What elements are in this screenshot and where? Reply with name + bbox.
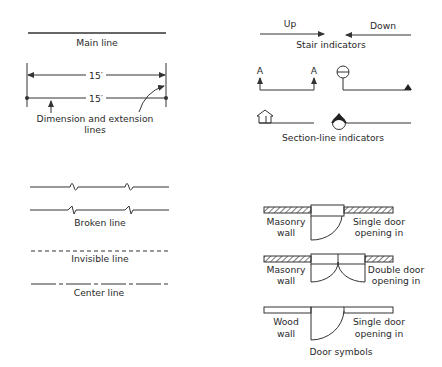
door-label: opening in — [355, 328, 404, 339]
broken-line-symbol: Broken line — [30, 184, 169, 229]
door-label: opening in — [372, 275, 421, 286]
section-triangle-icon — [404, 84, 412, 90]
diagram-canvas: Main line 15′ 15′ Dimension and extensio… — [0, 0, 442, 367]
dimension-dot-icon — [25, 96, 29, 100]
dimension-label-line1: Dimension and extension — [37, 113, 154, 124]
stair-indicators: Up Down Stair indicators — [260, 18, 411, 50]
door-label: Single door — [353, 216, 405, 227]
door-label: Single door — [353, 316, 405, 327]
dimension-value-top: 15′ — [89, 70, 103, 81]
door-swing-icon — [338, 262, 365, 282]
section-marker-right: A — [311, 65, 318, 76]
wall-label: wall — [277, 275, 295, 286]
section-caption: Section-line indicators — [282, 132, 384, 143]
door-label: opening in — [355, 227, 404, 238]
dimension-dot-icon — [164, 96, 168, 100]
door-swing-icon — [311, 262, 338, 282]
door-swing-icon — [311, 216, 342, 240]
door-row-masonry-single: Masonry wall Single door opening in — [264, 205, 405, 240]
main-line-symbol: Main line — [28, 33, 166, 48]
leader-arrow-icon — [139, 86, 164, 112]
dimension-symbol: 15′ 15′ Dimension and extension lines — [25, 63, 168, 135]
door-swing-icon — [311, 311, 344, 340]
stair-caption: Stair indicators — [296, 39, 366, 50]
door-row-masonry-double: Masonry wall Double door opening in — [264, 254, 424, 286]
section-indicators: A A Section-line indicators — [257, 65, 412, 143]
wall-label: wall — [277, 328, 295, 339]
door-row-wood-single: Wood wall Single door opening in — [264, 307, 405, 340]
center-line-symbol: Center line — [31, 284, 169, 298]
wall-label: Masonry — [266, 264, 306, 275]
dimension-label-line2: lines — [84, 124, 106, 135]
stair-up-label: Up — [284, 18, 297, 29]
door-symbols: Masonry wall Single door opening in Maso… — [264, 205, 424, 357]
invisible-line-label: Invisible line — [71, 253, 129, 264]
wall-label: Masonry — [266, 216, 306, 227]
section-house-icon — [257, 110, 273, 123]
section-marker-left: A — [257, 65, 264, 76]
stair-down-label: Down — [370, 20, 396, 31]
invisible-line-symbol: Invisible line — [31, 251, 169, 264]
door-label: Double door — [368, 264, 425, 275]
center-line-label: Center line — [74, 287, 125, 298]
broken-line-label: Broken line — [74, 217, 126, 228]
main-line-label: Main line — [76, 37, 118, 48]
wall-label: wall — [277, 227, 295, 238]
dimension-value-bottom: 15′ — [89, 93, 103, 104]
wall-label: Wood — [273, 316, 299, 327]
door-caption: Door symbols — [310, 346, 373, 357]
